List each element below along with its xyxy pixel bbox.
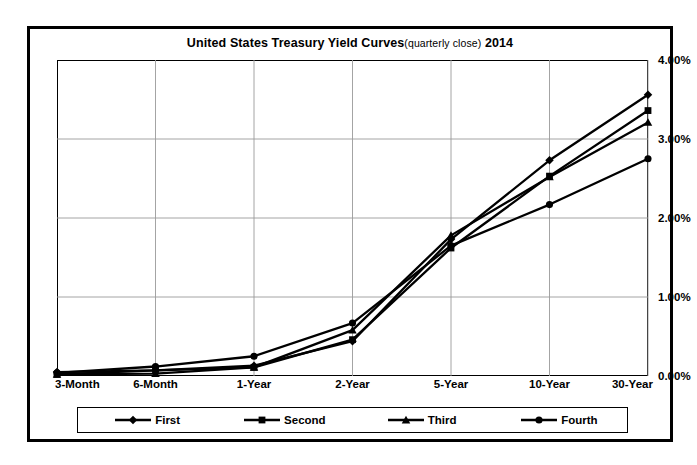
- page-title: United States Treasury Yield Curves(quar…: [30, 36, 670, 50]
- x-axis-tick-label: 5-Year: [434, 378, 469, 390]
- legend-item-first[interactable]: First: [78, 413, 215, 427]
- triangle-marker-icon: [644, 118, 653, 126]
- yield-curve-lines: [57, 60, 648, 376]
- circle-marker-icon: [447, 242, 454, 249]
- y-axis-labels: 0.00%1.00%2.00%3.00%4.00%: [652, 60, 697, 376]
- legend-label: Third: [428, 414, 457, 426]
- circle-marker-icon: [644, 155, 651, 162]
- square-marker-icon: [349, 336, 356, 343]
- y-axis-tick-label: 4.00%: [658, 54, 691, 66]
- chart-legend: FirstSecondThirdFourth: [77, 407, 628, 433]
- chart-title-year: 2014: [485, 36, 513, 50]
- x-axis-tick-label: 3-Month: [55, 378, 100, 390]
- x-axis-tick-label: 2-Year: [335, 378, 370, 390]
- chart-outer-frame: United States Treasury Yield Curves(quar…: [27, 26, 673, 442]
- legend-label: Second: [284, 414, 326, 426]
- legend-label: First: [155, 414, 180, 426]
- circle-marker-icon: [349, 320, 356, 327]
- x-axis-tick-label: 30-Year: [612, 378, 653, 390]
- y-axis-tick-label: 1.00%: [658, 291, 691, 303]
- circle-marker-icon: [546, 201, 553, 208]
- circle-marker-icon: [152, 363, 159, 370]
- chart-title-sub: (quarterly close): [404, 37, 481, 49]
- legend-item-second[interactable]: Second: [215, 413, 352, 427]
- x-axis-labels: 3-Month6-Month1-Year2-Year5-Year10-Year3…: [57, 378, 648, 398]
- x-axis-tick-label: 1-Year: [237, 378, 272, 390]
- circle-marker-icon: [519, 413, 559, 427]
- legend-item-fourth[interactable]: Fourth: [490, 413, 627, 427]
- square-marker-icon: [259, 417, 266, 424]
- y-axis-tick-label: 3.00%: [658, 133, 691, 145]
- triangle-marker-icon: [386, 413, 426, 427]
- square-marker-icon: [645, 107, 652, 114]
- legend-label: Fourth: [561, 414, 597, 426]
- y-axis-tick-label: 2.00%: [658, 212, 691, 224]
- circle-marker-icon: [250, 353, 257, 360]
- x-axis-tick-label: 10-Year: [529, 378, 570, 390]
- circle-marker-icon: [536, 416, 543, 423]
- square-marker-icon: [242, 413, 282, 427]
- plot-wrapper: [57, 60, 648, 376]
- chart-screenshot: United States Treasury Yield Curves(quar…: [0, 0, 697, 465]
- circle-marker-icon: [53, 369, 60, 376]
- chart-title-main: United States Treasury Yield Curves: [187, 36, 404, 50]
- legend-item-third[interactable]: Third: [353, 413, 490, 427]
- x-axis-tick-label: 6-Month: [133, 378, 178, 390]
- diamond-marker-icon: [113, 413, 153, 427]
- diamond-marker-icon: [129, 416, 138, 425]
- y-axis-tick-label: 0.00%: [658, 370, 691, 382]
